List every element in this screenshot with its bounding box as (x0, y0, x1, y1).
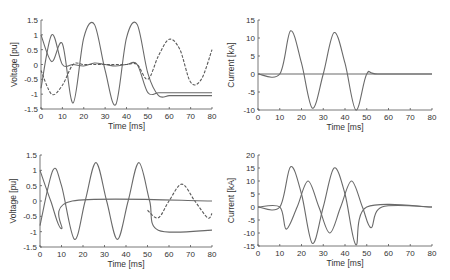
y-tick-label: 5 (251, 190, 256, 199)
x-tick-label: 0 (256, 113, 261, 122)
y-tick-label: -5 (248, 88, 256, 97)
y-axis-label: Current [kA] (226, 178, 236, 223)
y-tick-label: -1 (31, 90, 39, 99)
y-tick-label: 1 (34, 31, 39, 40)
y-tick-label: 0 (33, 197, 38, 206)
x-tick-label: 30 (319, 249, 328, 258)
y-axis-label: Voltage [pu] (8, 179, 18, 224)
x-tick-label: 60 (384, 113, 393, 122)
x-tick-label: 60 (384, 249, 393, 258)
x-tick-label: 40 (122, 250, 131, 259)
y-tick-label: 1.5 (27, 16, 39, 25)
subplot-1: 010203040506070801.510.50-0.5-1-1.5Time … (9, 16, 217, 131)
x-tick-label: 40 (341, 113, 350, 122)
x-tick-label: 80 (428, 249, 437, 258)
x-tick-label: 20 (79, 250, 88, 259)
y-tick-label: 1.5 (26, 151, 38, 160)
y-tick-label: 0 (34, 61, 39, 70)
y-tick-label: 0.5 (27, 46, 39, 55)
subplot-3: 010203040506070801.510.50-0.5-1-1.5Time … (8, 151, 217, 269)
series-line (40, 163, 212, 240)
y-tick-label: -5 (248, 216, 256, 225)
y-axis-label: Current [kA] (226, 42, 236, 87)
x-tick-label: 80 (208, 112, 217, 121)
y-tick-label: 10 (246, 177, 255, 186)
x-tick-label: 20 (79, 112, 88, 121)
x-tick-label: 50 (143, 112, 152, 121)
x-tick-label: 0 (39, 112, 44, 121)
y-tick-label: 0 (251, 70, 256, 79)
x-tick-label: 30 (319, 113, 328, 122)
x-tick-label: 70 (406, 249, 415, 258)
y-tick-label: 0 (251, 203, 256, 212)
y-tick-label: 1 (33, 166, 38, 175)
y-tick-label: -1.5 (23, 243, 37, 252)
x-tick-label: 10 (57, 250, 66, 259)
x-tick-label: 70 (186, 250, 195, 259)
y-tick-label: 0.5 (26, 182, 38, 191)
subplot-4: 0102030405060708020151050-5-10-15Time [m… (226, 151, 437, 268)
series-line (258, 181, 432, 233)
x-tick-label: 40 (122, 112, 131, 121)
x-tick-label: 20 (297, 113, 306, 122)
subplot-2: 01020304050607080151050-5-10Time [ms]Cur… (226, 16, 437, 132)
y-tick-label: 5 (251, 52, 256, 61)
x-tick-label: 40 (341, 249, 350, 258)
y-axis-label: Voltage [pu] (9, 42, 19, 87)
x-tick-label: 50 (143, 250, 152, 259)
x-axis-label: Time [ms] (108, 121, 145, 131)
x-axis-label: Time [ms] (327, 122, 364, 132)
x-axis-label: Time [ms] (327, 258, 364, 268)
x-tick-label: 70 (186, 112, 195, 121)
y-tick-label: 15 (246, 164, 255, 173)
axes (40, 155, 212, 247)
axes (258, 155, 432, 246)
x-tick-label: 0 (256, 249, 261, 258)
y-tick-label: 15 (246, 16, 255, 25)
series-line (40, 170, 212, 228)
y-tick-label: -15 (243, 242, 255, 251)
x-tick-label: 60 (165, 250, 174, 259)
x-tick-label: 20 (297, 249, 306, 258)
x-tick-label: 10 (275, 249, 284, 258)
y-tick-label: -0.5 (24, 75, 38, 84)
x-tick-label: 10 (58, 112, 67, 121)
x-tick-label: 70 (406, 113, 415, 122)
y-tick-label: -10 (243, 229, 255, 238)
x-tick-label: 60 (165, 112, 174, 121)
x-axis-label: Time [ms] (108, 259, 145, 269)
y-tick-label: -1.5 (24, 105, 38, 114)
x-tick-label: 80 (208, 250, 217, 259)
x-tick-label: 50 (362, 113, 371, 122)
y-tick-label: -10 (243, 106, 255, 115)
y-tick-label: -0.5 (23, 212, 37, 221)
x-tick-label: 0 (38, 250, 43, 259)
x-tick-label: 80 (428, 113, 437, 122)
x-tick-label: 30 (100, 250, 109, 259)
y-tick-label: 20 (246, 151, 255, 160)
y-tick-label: 10 (246, 34, 255, 43)
y-tick-label: -1 (30, 228, 38, 237)
x-tick-label: 30 (101, 112, 110, 121)
x-tick-label: 10 (275, 113, 284, 122)
figure: 010203040506070801.510.50-0.5-1-1.5Time … (0, 0, 450, 280)
series-line (258, 31, 432, 110)
x-tick-label: 50 (362, 249, 371, 258)
